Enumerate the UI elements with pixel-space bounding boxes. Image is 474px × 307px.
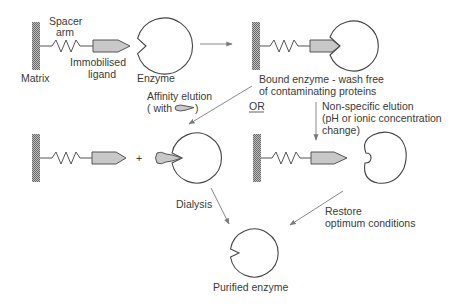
- label-restore: Restore: [325, 205, 362, 217]
- spacer-arm-icon: [261, 152, 311, 164]
- stage-purified: Purified enzyme: [213, 229, 288, 293]
- label-matrix: Matrix: [21, 72, 50, 84]
- label-immobilised: Immobilised: [70, 56, 126, 68]
- label-or: OR: [249, 100, 265, 112]
- immobilised-ligand-icon: [93, 40, 130, 52]
- label-affinity-elution: Affinity elution: [147, 90, 212, 102]
- label-arm: arm: [56, 26, 74, 38]
- affinity-chromatography-diagram: Spacer arm Matrix Immobilised ligand Enz…: [0, 0, 474, 307]
- stage-bound: Bound enzyme - wash free of contaminatin…: [252, 21, 384, 97]
- purified-enzyme-icon: [231, 229, 279, 277]
- stage-nonspecific-eluted: [253, 132, 406, 183]
- label-plus: +: [136, 152, 142, 164]
- dialysis-arrow: [211, 188, 229, 224]
- label-with: ( with: [147, 102, 172, 114]
- label-with-close: ): [195, 102, 199, 114]
- label-optimum-conditions: optimum conditions: [325, 217, 415, 229]
- label-ligand: ligand: [88, 68, 116, 80]
- enzyme-icon: [138, 18, 193, 74]
- label-ph-ionic: (pH or ionic concentration: [322, 112, 442, 124]
- label-dialysis: Dialysis: [176, 198, 212, 210]
- label-contaminating: of contaminating proteins: [259, 85, 376, 97]
- spacer-arm-icon: [40, 152, 92, 164]
- spacer-arm-icon: [40, 40, 93, 52]
- label-change: change): [322, 124, 360, 136]
- label-enzyme: Enzyme: [137, 72, 175, 84]
- free-ligand-icon: [175, 105, 194, 111]
- matrix-icon: [253, 134, 261, 182]
- denatured-enzyme-icon: [365, 132, 407, 183]
- stage-initial: Spacer arm Matrix Immobilised ligand Enz…: [21, 15, 193, 84]
- immobilised-ligand-icon: [311, 152, 347, 164]
- stage-affinity-eluted: +: [32, 133, 221, 183]
- label-bound-enzyme: Bound enzyme - wash free: [259, 73, 384, 85]
- matrix-icon: [32, 134, 40, 182]
- label-nonspecific: Non-specific elution: [322, 100, 414, 112]
- immobilised-ligand-icon: [92, 152, 126, 164]
- label-purified-enzyme: Purified enzyme: [213, 281, 288, 293]
- spacer-arm-icon: [260, 40, 310, 52]
- matrix-icon: [32, 22, 40, 70]
- matrix-icon: [252, 22, 260, 70]
